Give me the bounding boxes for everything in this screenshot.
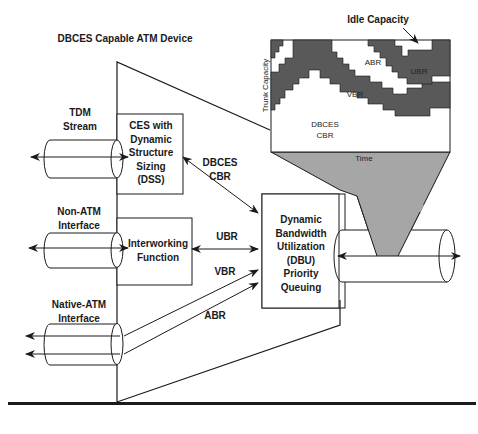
trunk-capacity-axis-label: Trunk Capacity (260, 51, 271, 121)
bottom-rule (8, 402, 476, 405)
device-title: DBCES Capable ATM Device (50, 32, 200, 46)
ces-block-label: CES with Dynamic Structure Sizing (DSS) (118, 119, 184, 187)
trunk-cylinder (334, 196, 460, 282)
ubr-region-label: UBR (404, 66, 434, 77)
non-atm-interface-label: Non-ATM Interface (48, 205, 110, 232)
abr-region-label: ABR (358, 57, 388, 68)
idle-capacity-label: Idle Capacity (338, 13, 418, 27)
native-atm-interface-label: Native-ATM Interface (43, 298, 115, 325)
interworking-block-label: Interworking Function (122, 237, 194, 264)
vbr-region-label: VBR (340, 89, 370, 100)
abr-flow-label: ABR (200, 309, 230, 323)
dbces-cbr-flow-label: DBCES CBR (200, 156, 240, 183)
native-atm-cylinder (26, 324, 123, 366)
vbr-flow-label: VBR (210, 265, 240, 279)
abr-arrow (124, 283, 258, 354)
time-axis-label: Time (344, 153, 384, 164)
non-atm-cylinder (29, 233, 128, 269)
cbr-region-label: DBCES CBR (305, 119, 345, 141)
tdm-cylinder (31, 140, 128, 178)
dbu-block-label: Dynamic Bandwidth Utilization (DBU) Prio… (262, 213, 340, 294)
tdm-stream-label: TDM Stream (55, 106, 105, 133)
ubr-flow-label: UBR (212, 230, 242, 244)
